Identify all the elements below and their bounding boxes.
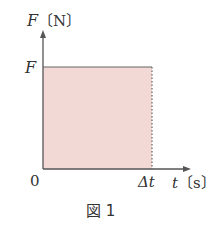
y-axis-symbol: F — [27, 11, 38, 30]
x-axis-label: t〔s〕 — [172, 176, 216, 191]
y-tick-label: F — [25, 60, 36, 76]
y-axis-unit: 〔N〕 — [38, 12, 81, 30]
x-axis-unit: 〔s〕 — [178, 174, 216, 192]
y-axis-arrow-icon — [40, 30, 46, 38]
x-axis-arrow-icon — [183, 166, 191, 172]
y-axis-label: F〔N〕 — [27, 13, 81, 29]
impulse-area — [43, 67, 152, 169]
force-time-graph — [0, 0, 219, 231]
figure-caption: 図 1 — [86, 204, 115, 219]
origin-label: 0 — [30, 174, 40, 189]
x-tick-label: Δt — [138, 175, 155, 190]
